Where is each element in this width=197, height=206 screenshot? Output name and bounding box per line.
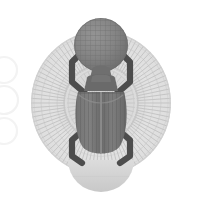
scarab-thorax-highlight [91,75,111,82]
scarab-artwork-canvas: Winged Scarab Grayscale illustration of … [0,0,197,206]
winged-scarab-illustration [0,0,197,206]
sun-disk-group [74,18,128,72]
